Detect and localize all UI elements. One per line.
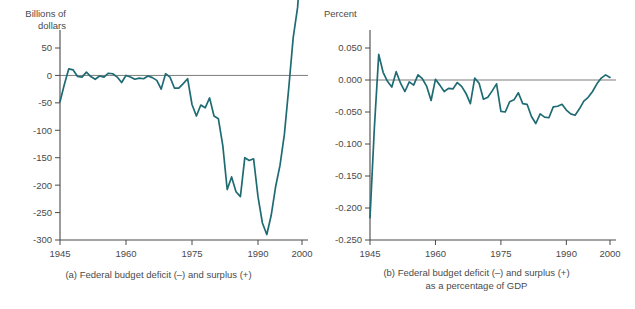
y-tick-label: -200 [33,180,52,191]
panel-b-caption-line2: as a percentage of GDP [318,279,635,292]
y-tick-label: 0.000 [338,74,362,85]
x-tick-label: 1960 [115,248,136,259]
y-tick-label: -0.250 [335,234,362,245]
x-tick-label: 2000 [291,248,312,259]
panel-b-plot: 0.0500.000-0.050-0.100-0.150-0.200-0.250… [318,0,635,262]
data-series-line [60,0,302,235]
x-tick-label: 1975 [181,248,202,259]
y-tick-label: 50 [41,42,52,53]
y-tick-label: -0.150 [335,170,362,181]
y-tick-label: -0.200 [335,202,362,213]
y-tick-label: 0.050 [338,42,362,53]
y-tick-label: -50 [38,97,52,108]
chart-panel-b: Percent 0.0500.000-0.050-0.100-0.150-0.2… [318,0,635,309]
panel-a-caption: (a) Federal budget deficit (–) and surpl… [0,268,317,281]
x-tick-label: 1945 [359,248,380,259]
x-tick-label: 2000 [599,248,620,259]
x-tick-label: 1990 [556,248,577,259]
figure-container: Billions of dollars 500-50-100-150-200-2… [0,0,635,309]
x-tick-label: 1945 [49,248,70,259]
y-tick-label: -300 [33,234,52,245]
panel-b-caption-line1: (b) Federal budget deficit (–) and surpl… [318,266,635,279]
y-tick-label: -150 [33,152,52,163]
x-tick-label: 1990 [247,248,268,259]
x-tick-label: 1960 [425,248,446,259]
x-tick-label: 1975 [490,248,511,259]
panel-a-plot: 500-50-100-150-200-250-30019451960197519… [0,0,317,262]
y-tick-label: -100 [33,125,52,136]
y-tick-label: -250 [33,207,52,218]
data-series-line [370,54,610,217]
y-tick-label: -0.100 [335,138,362,149]
y-tick-label: 0 [47,70,52,81]
chart-panel-a: Billions of dollars 500-50-100-150-200-2… [0,0,317,309]
y-tick-label: -0.050 [335,106,362,117]
